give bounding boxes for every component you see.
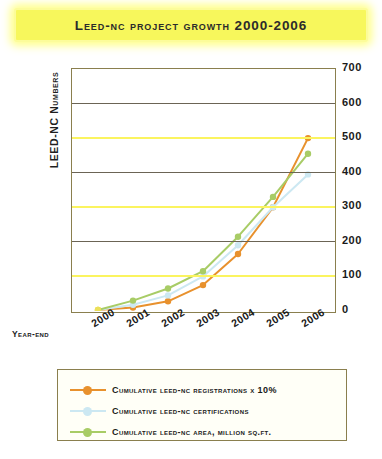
data-point-2-2 xyxy=(165,285,171,291)
chart-legend: Cumulative LEED-NC Registrations x 10%Cu… xyxy=(57,369,347,441)
y-tick-600: 600 xyxy=(342,96,376,108)
y-tick-400: 400 xyxy=(342,165,376,177)
data-point-1-2 xyxy=(165,292,171,298)
data-point-0-2 xyxy=(165,298,171,304)
y-tick-200: 200 xyxy=(342,234,376,246)
chart-container: LEED-NC Numbers 7006005004003002001000 2… xyxy=(0,52,382,352)
data-point-2-4 xyxy=(235,234,241,240)
chart-title-banner: LEED-NC Project Growth 2000-2006 xyxy=(14,8,368,42)
y-axis-title: LEED-NC Numbers xyxy=(48,50,60,190)
gridline-600 xyxy=(72,103,335,104)
data-point-2-1 xyxy=(130,297,136,303)
gridline-200 xyxy=(72,241,335,242)
legend-label-1: Cumulative LEED-NC Certifications xyxy=(112,406,249,416)
legend-item-1[interactable]: Cumulative LEED-NC Certifications xyxy=(70,402,249,420)
gridline-400 xyxy=(72,172,335,173)
legend-swatch-icon-2 xyxy=(70,427,106,437)
data-point-2-6 xyxy=(305,151,311,157)
data-point-0-4 xyxy=(235,251,241,257)
legend-label-0: Cumulative LEED-NC Registrations x 10% xyxy=(112,385,277,395)
legend-item-2[interactable]: Cumulative LEED-NC Area, million sq.ft. xyxy=(70,423,272,441)
legend-swatch-icon-1 xyxy=(70,406,106,416)
plot-area xyxy=(71,68,336,313)
y-tick-700: 700 xyxy=(342,61,376,73)
legend-dot-icon-1 xyxy=(83,407,92,416)
data-point-1-4 xyxy=(235,242,241,248)
x-axis-title: Year-End xyxy=(12,329,49,339)
data-point-2-5 xyxy=(270,194,276,200)
legend-dot-icon-2 xyxy=(83,428,92,437)
y-tick-500: 500 xyxy=(342,130,376,142)
gridline-500 xyxy=(72,137,335,139)
legend-item-0[interactable]: Cumulative LEED-NC Registrations x 10% xyxy=(70,381,277,399)
gridline-100 xyxy=(72,275,335,277)
legend-swatch-icon-0 xyxy=(70,385,106,395)
page-title: LEED-NC Project Growth 2000-2006 xyxy=(75,18,307,33)
y-tick-300: 300 xyxy=(342,199,376,211)
gridline-300 xyxy=(72,206,335,208)
legend-label-2: Cumulative LEED-NC Area, million sq.ft. xyxy=(112,427,272,437)
y-tick-100: 100 xyxy=(342,268,376,280)
data-point-0-3 xyxy=(200,282,206,288)
legend-dot-icon-0 xyxy=(83,386,92,395)
data-point-2-3 xyxy=(200,268,206,274)
y-tick-0: 0 xyxy=(342,303,376,315)
